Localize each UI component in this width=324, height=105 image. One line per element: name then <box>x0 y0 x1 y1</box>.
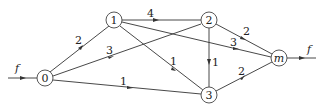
edge-capacity-label: 1 <box>120 75 127 88</box>
arrowhead-icon <box>20 76 26 80</box>
edge-capacity-label: 4 <box>147 7 154 20</box>
diagram-svg: f f 2 3 1 4 <box>0 0 324 105</box>
edge-0-3: 1 <box>53 75 201 94</box>
edge-2-3: 1 <box>207 28 219 87</box>
node-label: 1 <box>111 14 118 27</box>
edge-3-m: 2 <box>216 62 272 91</box>
node-1: 1 <box>106 12 122 28</box>
sink-flow-label: f <box>306 43 313 56</box>
flow-network-diagram: f f 2 3 1 4 <box>0 0 324 105</box>
node-3: 3 <box>201 87 217 103</box>
edge-capacity-label: 2 <box>238 65 245 78</box>
edge-capacity-label: 3 <box>230 36 237 49</box>
edge-capacity-label: 2 <box>243 25 250 38</box>
edge-capacity-label: 1 <box>212 56 219 69</box>
edge-1-2: 4 <box>122 7 201 22</box>
edge-capacity-label: 2 <box>75 34 82 47</box>
source-flow-arrow: f <box>8 62 37 80</box>
edge-0-1: 2 <box>50 26 109 72</box>
node-label: 2 <box>206 14 213 27</box>
node-label: 0 <box>42 72 49 85</box>
node-2: 2 <box>201 12 217 28</box>
node-0: 0 <box>37 70 53 86</box>
sink-flow-arrow: f <box>287 43 316 60</box>
node-label: 3 <box>206 89 213 102</box>
edge-2-m: 2 <box>216 24 272 54</box>
node-label: m <box>274 52 284 65</box>
arrowhead-icon <box>299 56 305 60</box>
source-flow-label: f <box>14 62 21 75</box>
node-m: m <box>271 50 287 66</box>
edge-1-3: 1 <box>120 26 203 90</box>
edge-capacity-label: 3 <box>106 44 113 57</box>
edge-capacity-label: 1 <box>170 55 177 68</box>
